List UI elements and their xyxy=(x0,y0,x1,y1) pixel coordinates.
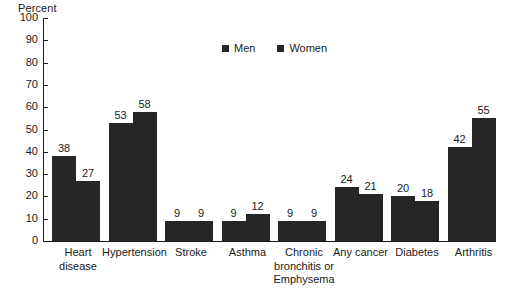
bar-value-label: 12 xyxy=(240,200,276,212)
y-axis-tick-label: 20 xyxy=(0,189,38,202)
y-axis-tick-label: 80 xyxy=(0,56,38,69)
bar-pair: 2018 xyxy=(389,0,445,241)
bar-rect xyxy=(359,194,383,241)
bar-rect xyxy=(109,123,133,241)
bar-rect xyxy=(222,221,246,241)
bar-rect xyxy=(76,181,100,241)
bar-pair: 99 xyxy=(163,0,219,241)
bar-pair: 2421 xyxy=(333,0,389,241)
y-axis-tick-label: 10 xyxy=(0,212,38,225)
y-axis-tick-label: 30 xyxy=(0,167,38,180)
bar-rect xyxy=(278,221,302,241)
y-axis-tick-label: 40 xyxy=(0,145,38,158)
y-axis-tick-label: 60 xyxy=(0,100,38,113)
bar-rect xyxy=(133,112,157,241)
bar-rect xyxy=(246,214,270,241)
bar-pair: 4255 xyxy=(446,0,502,241)
x-axis-label-line: Arthritis xyxy=(426,246,506,260)
bar-value-label: 27 xyxy=(70,167,106,179)
bar-value-label: 21 xyxy=(353,180,389,192)
bar-rect xyxy=(472,118,496,241)
bar-value-label: 58 xyxy=(127,98,163,110)
x-axis-label: Arthritis xyxy=(426,246,506,260)
bar-rect xyxy=(165,221,189,241)
bar-rect xyxy=(335,187,359,241)
bar-rect xyxy=(302,221,326,241)
y-axis-tick-label: 100 xyxy=(0,11,38,24)
y-axis-tick-label: 70 xyxy=(0,78,38,91)
bar-pair: 5358 xyxy=(107,0,163,241)
bar-rect xyxy=(448,147,472,241)
bar-pair: 99 xyxy=(276,0,332,241)
bar-value-label: 55 xyxy=(466,104,502,116)
bar-value-label: 9 xyxy=(183,207,219,219)
y-axis-tick-label: 90 xyxy=(0,33,38,46)
bar-groups: 3827Heartdisease5358Hypertension99Stroke… xyxy=(44,0,496,292)
bar-value-label: 38 xyxy=(46,142,82,154)
bar-pair: 912 xyxy=(220,0,276,241)
bar-value-label: 18 xyxy=(409,187,445,199)
bar-pair: 3827 xyxy=(50,0,106,241)
bar-chart: Percent 1009080706050403020100 MenWomen … xyxy=(0,0,506,292)
y-axis-tick-label: 50 xyxy=(0,123,38,136)
bar-rect xyxy=(415,201,439,241)
bar-rect xyxy=(189,221,213,241)
bar-value-label: 9 xyxy=(296,207,332,219)
bar-rect xyxy=(391,196,415,241)
